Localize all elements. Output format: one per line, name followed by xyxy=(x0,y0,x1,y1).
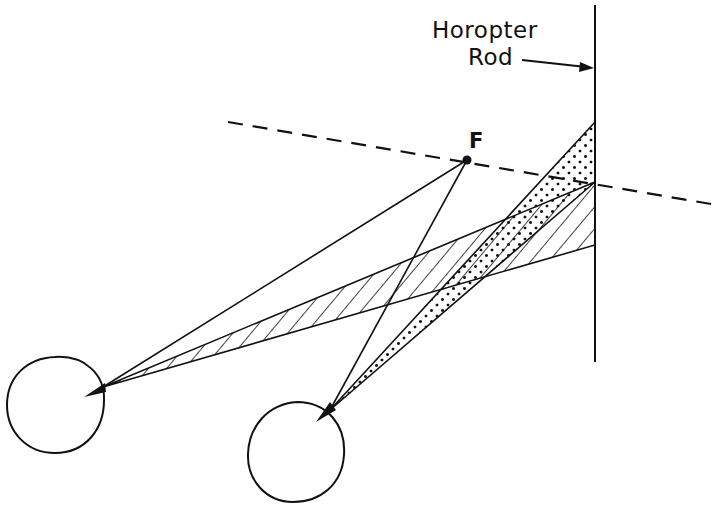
horopter-label: Horopter xyxy=(432,17,538,43)
arrowhead-icon xyxy=(579,62,594,72)
horopter-diagram xyxy=(0,0,717,508)
rod-arrow xyxy=(522,60,586,67)
fixation-point-label: F xyxy=(469,128,483,154)
fixation-point-dot xyxy=(463,156,472,165)
left-eye-pupil-wedge xyxy=(84,383,106,397)
left-eye-circle xyxy=(7,357,104,453)
rod-label: Rod xyxy=(468,44,513,70)
right-eye-circle xyxy=(248,402,344,502)
